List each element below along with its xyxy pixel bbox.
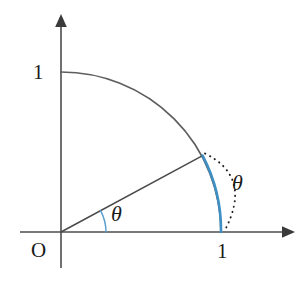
unit-circle-arc [61, 72, 221, 232]
theta-angle-label: θ [111, 203, 122, 225]
angle-arc-at-origin [101, 211, 106, 232]
origin-label: O [31, 240, 46, 261]
theta-arc-length-label: θ [232, 172, 243, 194]
unit-circle-figure: 1 1 O θ θ [0, 0, 300, 283]
arc-length-highlight [203, 156, 221, 232]
y-axis-arrowhead [55, 14, 67, 27]
y-axis-tick-label-1: 1 [33, 62, 44, 83]
x-axis-arrowhead [282, 226, 295, 238]
x-axis-tick-label-1: 1 [217, 241, 228, 262]
radius-ray [61, 156, 203, 232]
